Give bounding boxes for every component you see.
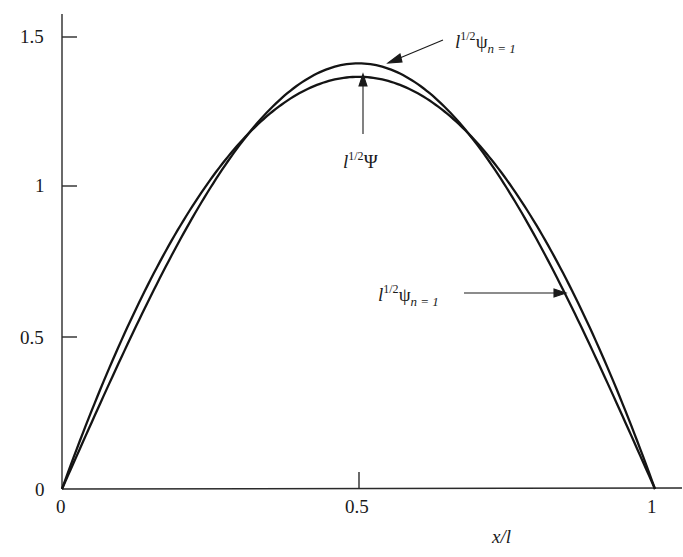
y-tick-label-0: 0 (35, 480, 45, 499)
x-tick-label-0: 0 (56, 497, 66, 516)
plot-area (0, 0, 683, 557)
y-tick-label-1-5: 1.5 (20, 27, 44, 46)
y-tick-label-1: 1 (35, 176, 45, 195)
annotation-psi-right: l1/2ψn = 1 (378, 283, 439, 308)
ann-psi-symbol: ψ (476, 31, 488, 52)
y-tick-label-0-5: 0.5 (20, 328, 44, 347)
axes (62, 14, 682, 489)
curve-psi-n1 (62, 63, 655, 489)
x-tick-label-1: 1 (647, 497, 657, 516)
arrow-Psi (359, 74, 367, 134)
curve-Psi-variational (62, 77, 655, 489)
ann-power: 1/2 (460, 29, 475, 43)
arrow-psi-top (388, 40, 443, 63)
x-axis-label: x/l (492, 526, 511, 548)
ann-Psi-symbol: Ψ (364, 151, 378, 172)
arrow-psi-right (464, 289, 566, 297)
ann-psi-symbol: ψ (399, 284, 411, 305)
annotation-Psi: l1/2Ψ (343, 150, 378, 171)
ann-subscript: n = 1 (411, 294, 439, 309)
annotation-psi-top: l1/2ψn = 1 (455, 30, 516, 55)
ann-subscript: n = 1 (488, 41, 516, 56)
ann-power: 1/2 (348, 149, 363, 163)
ann-power: 1/2 (383, 282, 398, 296)
x-tick-label-0-5: 0.5 (345, 497, 369, 516)
x-axis (62, 488, 682, 489)
